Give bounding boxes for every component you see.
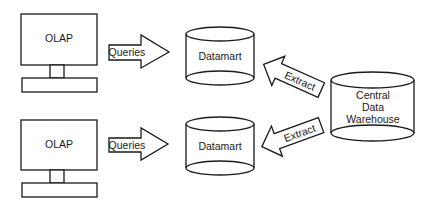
datamart-top: Datamart (186, 27, 254, 85)
olap-client-top: OLAP (21, 14, 97, 92)
cylinder-top (186, 117, 254, 131)
olap-label: OLAP (45, 32, 73, 44)
monitor-stand (50, 65, 64, 78)
queries-arrow-bottom: Queries (109, 128, 168, 160)
queries-label: Queries (109, 139, 146, 151)
monitor-base (22, 78, 97, 92)
extract-arrow-bottom: Extract (256, 110, 326, 162)
queries-arrow-top: Queries (109, 35, 169, 68)
cylinder-top (186, 27, 254, 41)
datamart-bottom: Datamart (186, 117, 254, 175)
warehouse-label-line1: Central (356, 89, 390, 101)
monitor-base (22, 183, 97, 197)
extract-arrow-top: Extract (257, 50, 328, 105)
warehouse-label-line3: Warehouse (346, 113, 399, 125)
datamart-label: Datamart (198, 50, 241, 62)
monitor-stand (50, 170, 64, 183)
olap-label: OLAP (45, 138, 73, 150)
datamart-label: Datamart (198, 140, 241, 152)
diagram-canvas: OLAP OLAP Queries Queries Datamart Datam… (0, 0, 431, 211)
queries-label: Queries (109, 46, 146, 58)
warehouse-label-line2: Data (362, 101, 384, 113)
cylinder-top (331, 72, 414, 88)
olap-client-bottom: OLAP (21, 120, 97, 197)
central-data-warehouse: Central Data Warehouse (331, 72, 414, 141)
